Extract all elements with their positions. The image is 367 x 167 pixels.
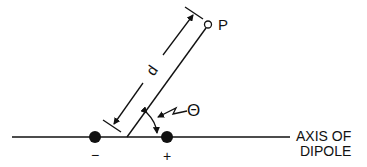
dimension-tick-top (185, 7, 203, 19)
line-to-point-p (127, 28, 206, 137)
negative-charge (89, 131, 101, 143)
positive-sign-label: + (163, 148, 171, 164)
positive-charge (161, 131, 173, 143)
axis-label-line2: DIPOLE (300, 143, 351, 159)
axis-label-line1: AXIS OF (296, 128, 351, 144)
angle-theta-label: Θ (187, 101, 200, 120)
angle-arc (147, 113, 157, 133)
dimension-tick-bottom (103, 120, 121, 132)
point-p-marker (205, 21, 212, 28)
angle-leader (158, 108, 187, 117)
dipole-diagram: P d Θ − + AXIS OF DIPOLE (0, 0, 367, 167)
point-p-label: P (218, 16, 228, 33)
dimension-arrow-lower (114, 83, 143, 124)
dimension-arrow-upper (163, 15, 193, 55)
distance-label: d (142, 62, 161, 79)
negative-sign-label: − (91, 147, 99, 163)
